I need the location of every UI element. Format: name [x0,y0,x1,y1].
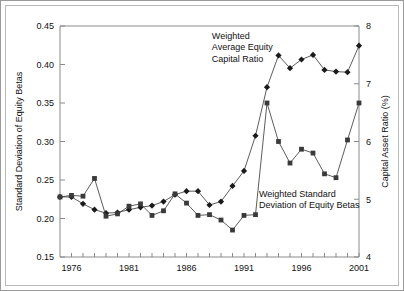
chart-annotation-1: WeightedAverage EquityCapital Ratio [212,31,273,64]
chart-panel: 0.150.200.250.300.350.400.45456781976198… [5,5,399,286]
y2-axis-tick-label: 6 [366,137,371,147]
data-point-marker [115,211,120,216]
data-point-marker [311,151,316,156]
y-axis-tick-label: 0.15 [36,252,54,262]
x-axis-tick-label: 1981 [119,263,139,273]
data-point-marker [333,69,339,75]
y-axis-tick-label: 0.20 [36,214,54,224]
data-point-marker [173,191,178,196]
data-point-marker [288,161,293,166]
y2-axis-tick-label: 7 [366,79,371,89]
data-point-marker [92,176,97,181]
data-point-marker [265,101,270,106]
y-axis-tick-label: 0.25 [36,175,54,185]
y-axis-tick-label: 0.30 [36,137,54,147]
data-point-marker [104,214,109,219]
y-axis-title: Standard Deviation of Equity Betas [14,71,24,211]
data-point-marker [183,188,189,194]
data-point-marker [264,84,270,90]
data-point-marker [356,43,362,49]
chart-annotation-2: Weighted StandardDeviation of Equity Bet… [259,189,360,211]
y-axis-tick-label: 0.40 [36,60,54,70]
y2-axis-tick-label: 8 [366,21,371,31]
data-point-marker [357,101,362,106]
series-line-2 [60,103,359,230]
plot-border [60,26,359,257]
data-point-marker [207,212,212,217]
data-point-marker [252,133,258,139]
x-axis-tick-label: 2001 [349,263,369,273]
data-point-marker [127,204,132,209]
data-point-marker [81,194,86,199]
annotation-line: Capital Ratio [212,54,264,64]
y-axis-tick-label: 0.35 [36,98,54,108]
data-point-marker [276,139,281,144]
data-point-marker [150,213,155,218]
x-axis-tick-label: 1976 [61,263,81,273]
y-axis-tick-label: 0.45 [36,21,54,31]
data-point-marker [184,201,189,206]
data-point-marker [218,198,224,204]
data-point-marker [344,69,350,75]
y2-axis-tick-label: 5 [366,195,371,205]
data-point-marker [334,175,339,180]
data-point-marker [196,213,201,218]
data-point-marker [345,138,350,143]
data-point-marker [242,213,247,218]
annotation-line: Deviation of Equity Betas [259,200,360,210]
annotation-line: Weighted Standard [259,189,336,199]
data-point-marker [91,207,97,213]
y2-axis-tick-label: 4 [366,252,371,262]
line-chart: 0.150.200.250.300.350.400.45456781976198… [6,6,400,287]
x-axis-tick-label: 1996 [291,263,311,273]
data-point-marker [299,147,304,152]
data-point-marker [253,212,258,217]
annotation-line: Weighted [212,31,250,41]
data-point-marker [230,228,235,233]
y2-axis-title: Capital Asset Ratio (%) [380,95,390,188]
data-point-marker [219,218,224,223]
figure-frame: 0.150.200.250.300.350.400.45456781976198… [0,0,404,291]
x-axis-tick-label: 1991 [234,263,254,273]
data-point-marker [58,195,63,200]
data-point-marker [138,201,143,206]
annotation-line: Average Equity [212,42,273,52]
data-point-marker [322,171,327,176]
data-point-marker [69,193,74,198]
data-point-marker [160,198,166,204]
data-point-marker [149,203,155,209]
x-axis-tick-label: 1986 [176,263,196,273]
data-point-marker [161,208,166,213]
data-point-marker [80,201,86,207]
